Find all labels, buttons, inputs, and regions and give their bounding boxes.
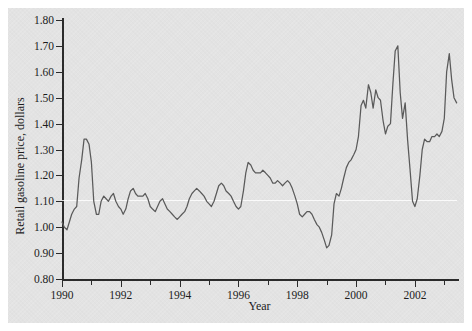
x-tick-mark — [121, 281, 122, 287]
y-tick-label: 0.90 — [34, 247, 54, 259]
x-minor-tick-mark — [209, 281, 210, 285]
x-tick-mark — [297, 281, 298, 287]
x-tick-mark — [62, 281, 63, 287]
y-tick-label: 1.20 — [34, 169, 54, 181]
data-series-line — [62, 46, 457, 248]
y-tick-label: 1.10 — [34, 195, 54, 207]
x-minor-tick-mark — [150, 281, 151, 285]
x-tick-mark — [415, 281, 416, 287]
plot-area: 0.800.901.001.101.201.301.401.501.601.70… — [62, 20, 457, 280]
figure-panel: Retail gasoline price, dollars 0.800.901… — [8, 8, 464, 323]
y-tick-label: 1.00 — [34, 221, 54, 233]
y-axis-title: Retail gasoline price, dollars — [13, 97, 28, 234]
y-tick-label: 1.30 — [34, 144, 54, 156]
x-tick-mark — [238, 281, 239, 287]
x-minor-tick-mark — [327, 281, 328, 285]
x-minor-tick-mark — [385, 281, 386, 285]
y-tick-label: 0.80 — [34, 273, 54, 285]
x-axis-title: Year — [62, 299, 457, 314]
chart-svg — [62, 20, 459, 281]
x-tick-mark — [180, 281, 181, 287]
y-tick-label: 1.80 — [34, 14, 54, 26]
y-tick-label: 1.40 — [34, 118, 54, 130]
y-tick-label: 1.60 — [34, 66, 54, 78]
x-minor-tick-mark — [91, 281, 92, 285]
x-minor-tick-mark — [444, 281, 445, 285]
x-minor-tick-mark — [268, 281, 269, 285]
x-tick-mark — [356, 281, 357, 287]
y-tick-label: 1.50 — [34, 92, 54, 104]
y-tick-label: 1.70 — [34, 40, 54, 52]
